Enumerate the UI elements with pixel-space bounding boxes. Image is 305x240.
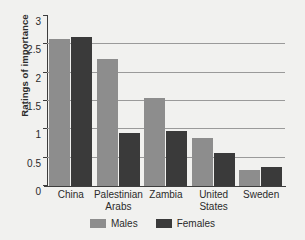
y-axis-title: Ratings of importance [19, 0, 30, 136]
legend-item: Females [156, 218, 215, 229]
x-axis-line [44, 186, 286, 187]
bar-group [237, 16, 285, 186]
bar-females [71, 37, 92, 186]
bar-males [144, 98, 165, 186]
legend-item: Males [90, 218, 138, 229]
bar-group [95, 16, 143, 186]
plot-area: 00.511.522.53 [47, 16, 285, 186]
bar-males [97, 59, 118, 187]
legend-swatch-males [90, 219, 106, 228]
bar-chart: Ratings of importance 00.511.522.53 Chin… [0, 0, 305, 240]
legend-label: Males [111, 218, 138, 229]
bar-groups [47, 16, 285, 186]
bar-males [49, 39, 70, 186]
x-axis-labels: ChinaPalestinian ArabsZambiaUnited State… [47, 189, 285, 219]
bar-females [119, 133, 140, 186]
legend-swatch-females [156, 219, 172, 228]
bar-group [142, 16, 190, 186]
bar-females [214, 153, 235, 186]
legend-label: Females [177, 218, 215, 229]
bar-males [239, 170, 260, 186]
bar-group [190, 16, 238, 186]
bar-group [47, 16, 95, 186]
bar-females [166, 131, 187, 186]
legend: MalesFemales [0, 218, 305, 229]
bar-females [261, 167, 282, 186]
bar-males [192, 138, 213, 186]
x-axis-label: Sweden [229, 189, 293, 201]
